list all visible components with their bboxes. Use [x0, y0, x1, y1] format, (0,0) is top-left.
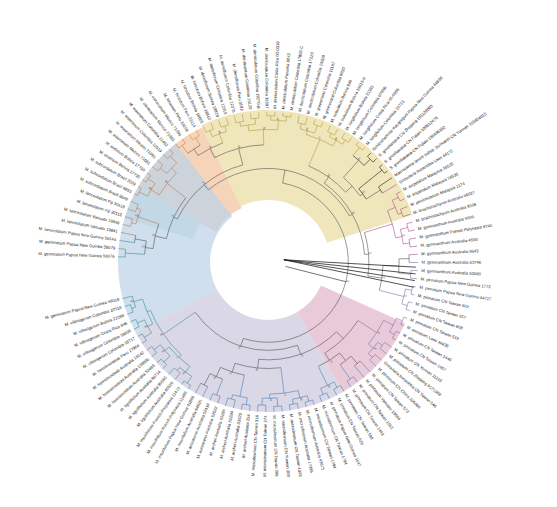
taxon-label: M. microdesmum CN Taiwan 274: [262, 415, 268, 477]
branch-radial: [396, 237, 402, 238]
phylogenetic-tree-figure: 1001009998979695949392919089888786858483…: [0, 0, 557, 507]
support-value: 92: [402, 233, 406, 238]
branch-radial: [400, 227, 407, 229]
branch-radial: [410, 278, 417, 279]
support-value: 91: [404, 294, 408, 299]
branch-radial: [410, 246, 417, 247]
taxon-label: M. denticulatum Costa Rica 00-0319: [272, 41, 280, 109]
branch-radial: [406, 309, 410, 310]
taxon-label: M. microdesmum CN Yunnan 300: [280, 415, 291, 478]
root-outgroup-branch: [284, 260, 415, 281]
branch-radial: [285, 266, 345, 281]
tree-canvas: 1001009998979695949392919089888786858483…: [0, 0, 557, 507]
taxon-label: M. gymnanthum Australia 4500: [420, 237, 478, 248]
root-outgroup-branch: [284, 260, 414, 287]
taxon-label: M. denticulatum Colombia 19307: [264, 48, 270, 110]
taxon-label: M. gymnanthum Australia 53580: [421, 268, 482, 276]
support-value: 60: [346, 279, 350, 284]
branch-radial: [409, 230, 415, 231]
taxon-labels: M. geminatum Papua New Guinea 56076M. ge…: [38, 41, 493, 478]
support-value: 67: [369, 251, 373, 255]
branch-radial: [411, 294, 414, 295]
taxon-label: M. archeri Australia 254: [241, 413, 251, 458]
taxon-label: M. microdesmum CN Taiwan 316: [250, 414, 259, 476]
branch-radial: [407, 222, 413, 224]
support-value: 76: [382, 275, 386, 279]
branch-radial: [406, 289, 412, 290]
root-outgroup-branch: [284, 260, 416, 274]
branch-radial: [409, 238, 416, 239]
taxon-label: M. gymnanthum Australia 9543: [421, 248, 479, 256]
branch-radial: [408, 302, 412, 303]
branch-radial: [404, 317, 407, 318]
taxon-label: M. denticulatum Colombia 19270-B: [252, 44, 261, 109]
taxon-label: M. gymnanthum Australia 53746: [421, 260, 481, 265]
branch-radial: [379, 290, 403, 296]
taxon-label: M. microdesmum CN Taiwan 309: [272, 415, 279, 477]
root-outgroup-branch: [284, 260, 416, 267]
branch-radial: [403, 243, 409, 244]
taxon-label: M. geminatum Papua New Guinea 56076: [38, 251, 115, 259]
branch-radial: [402, 304, 408, 306]
